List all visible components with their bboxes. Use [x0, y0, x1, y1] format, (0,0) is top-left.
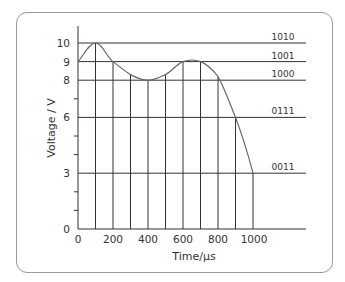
code-label-1010: 1010 — [272, 32, 295, 42]
y-tick-10: 10 — [57, 37, 70, 49]
x-tick-0: 0 — [75, 233, 82, 245]
code-label-0111: 0111 — [272, 106, 295, 116]
code-label-1000: 1000 — [272, 69, 295, 79]
code-label-0011: 0011 — [272, 162, 295, 172]
y-tick-8: 8 — [63, 74, 70, 86]
y-tick-0: 0 — [63, 223, 70, 235]
y-tick-6: 6 — [63, 111, 70, 123]
y-tick-3: 3 — [63, 167, 70, 179]
chart-svg: 10 9 8 6 3 0 0 200 400 600 800 1000 1010… — [0, 0, 345, 282]
y-tick-9: 9 — [63, 56, 70, 68]
sample-lines — [96, 43, 254, 229]
y-axis-title: Voltage / V — [45, 98, 58, 158]
y-minor-ticks — [74, 99, 78, 211]
x-tick-1000: 1000 — [241, 233, 268, 245]
x-tick-400: 400 — [138, 233, 158, 245]
code-label-1001: 1001 — [272, 51, 295, 61]
x-tick-200: 200 — [103, 233, 123, 245]
x-axis-title: Time/µs — [171, 250, 216, 263]
x-tick-600: 600 — [173, 233, 193, 245]
x-tick-800: 800 — [208, 233, 228, 245]
